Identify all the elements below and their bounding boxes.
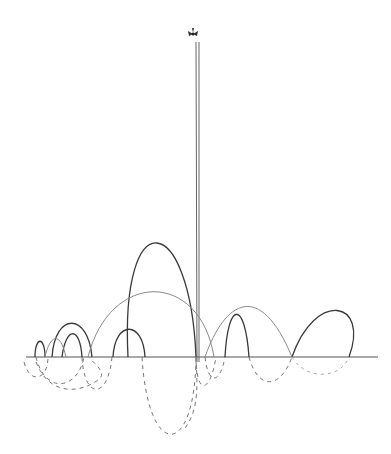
sketch-canvas (0, 0, 391, 454)
arc-small-left (35, 341, 45, 357)
dash-arc-7 (184, 362, 197, 430)
flower-icon (188, 28, 198, 36)
dash-arc-5 (142, 357, 196, 434)
arc-right-narrow (225, 314, 249, 357)
dash-arc-4 (82, 357, 112, 389)
dash-arc-3 (36, 357, 102, 389)
arc-center-big (127, 243, 196, 357)
dash-arc-2 (36, 357, 84, 384)
arc-far-right (292, 310, 354, 357)
dash-arc-10 (205, 357, 225, 378)
arc-left-tall (52, 323, 92, 357)
dash-arc-1 (24, 357, 48, 377)
dash-arc-8 (249, 357, 292, 382)
dash-arc-9 (292, 357, 349, 374)
arc-mid-small (113, 329, 145, 357)
